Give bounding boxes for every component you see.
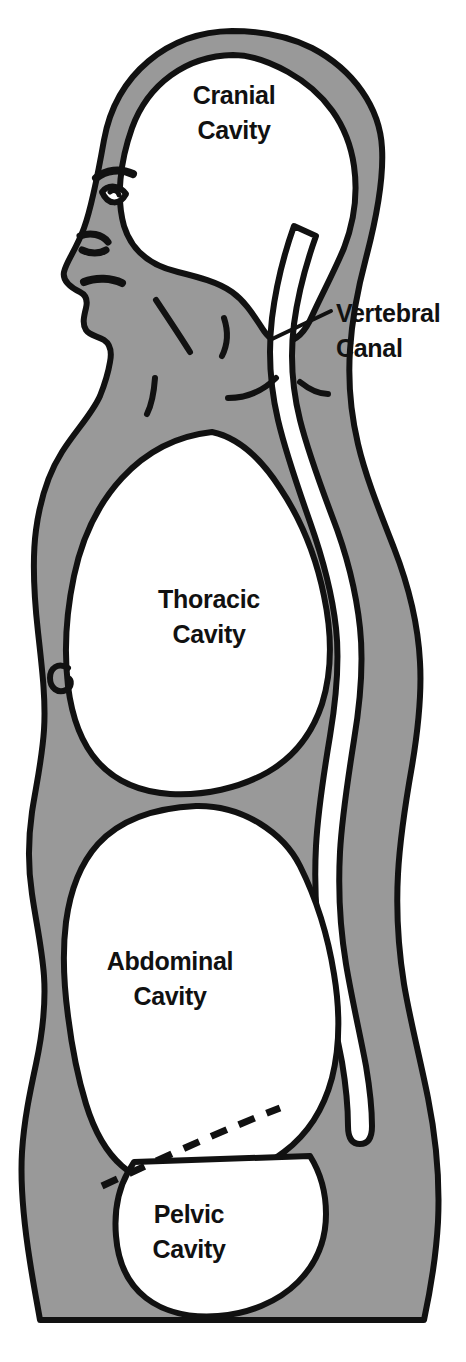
body-cavities-diagram: Cranial Cavity Vertebral Canal Thoracic …	[0, 0, 466, 1362]
abdominal-cavity-label-line2: Cavity	[133, 982, 207, 1010]
vertebral-canal-label-line2: Canal	[336, 334, 403, 362]
thoracic-cavity-label-line2: Cavity	[172, 620, 246, 648]
pelvic-cavity-label-line1: Pelvic	[154, 1200, 225, 1228]
nostril-icon	[82, 250, 106, 253]
thoracic-cavity-label-line1: Thoracic	[158, 585, 260, 613]
lips-icon	[84, 279, 122, 283]
pelvic-cavity-label-line2: Cavity	[152, 1235, 226, 1263]
cranial-cavity-label-line2: Cavity	[197, 116, 271, 144]
vertebral-canal-label-line1: Vertebral	[336, 299, 440, 327]
body-cavities-illustration: Cranial Cavity Vertebral Canal Thoracic …	[0, 0, 466, 1362]
cranial-cavity-label-line1: Cranial	[193, 81, 276, 109]
abdominal-cavity-label-line1: Abdominal	[107, 947, 233, 975]
